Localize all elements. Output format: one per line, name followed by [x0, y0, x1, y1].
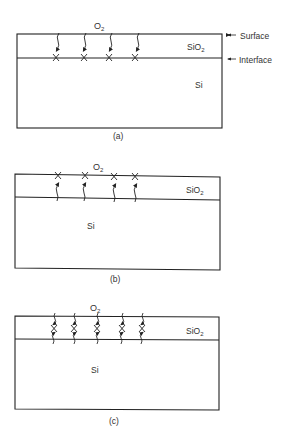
- panel-a-caption: (a): [113, 131, 124, 141]
- panel-c-oxide-label: SiO2: [186, 326, 204, 337]
- panel-b-oxide-label: SiO2: [186, 185, 204, 196]
- oxidation-diagram: O2 SiO2 Si Surface Interface (a) O2 SiO2…: [0, 0, 295, 436]
- panel-c: O2 SiO2 Si (c): [15, 303, 219, 426]
- panel-a-oxide-label: SiO2: [187, 42, 205, 53]
- panel-c-silicon-arrows: [52, 333, 142, 344]
- panel-a: O2 SiO2 Si Surface Interface (a): [17, 21, 272, 141]
- panel-c-gas-label: O2: [90, 303, 101, 314]
- surface-annotation: Surface: [240, 31, 270, 41]
- panel-c-reaction-crosses: [51, 325, 145, 332]
- panel-b-caption: (b): [110, 274, 121, 284]
- panel-a-oxygen-arrows: [57, 33, 139, 50]
- panel-b-silicon-arrows: [56, 184, 136, 202]
- panel-a-gas-label: O2: [94, 21, 105, 32]
- panel-c-substrate-label: Si: [91, 365, 99, 375]
- panel-c-oxygen-arrows: [54, 313, 144, 324]
- panel-b-gas-label: O2: [93, 162, 104, 173]
- panel-c-caption: (c): [109, 416, 119, 426]
- panel-c-interface-line: [15, 339, 219, 340]
- panel-b: O2 SiO2 Si (b): [15, 162, 220, 284]
- panel-b-substrate-label: Si: [87, 221, 95, 231]
- panel-a-substrate-label: Si: [195, 80, 203, 90]
- interface-annotation: Interface: [239, 55, 272, 65]
- panel-b-interface-line: [15, 197, 220, 200]
